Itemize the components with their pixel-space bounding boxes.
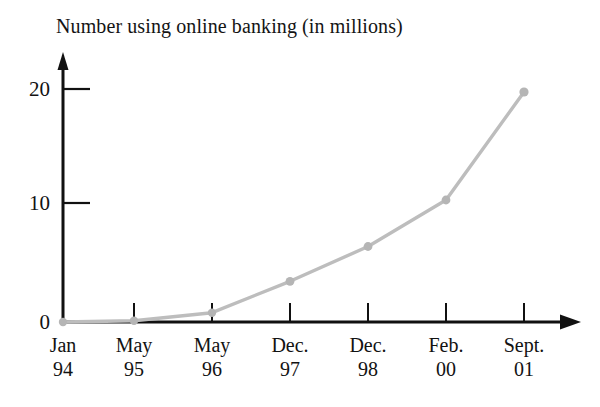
data-point-dec-97	[286, 277, 295, 286]
y-axis-arrow-icon	[58, 52, 69, 70]
data-point-feb-00	[442, 196, 451, 205]
x-axis-label-may-95: May 95	[89, 334, 179, 381]
x-axis-label-dec-97-year: 97	[245, 358, 335, 382]
data-point-jan-94	[59, 318, 67, 326]
x-axis-label-sept-01: Sept. 01	[479, 334, 569, 381]
x-axis-label-feb-00-year: 00	[401, 358, 491, 382]
chart-container: Number using online banking (in millions…	[0, 0, 600, 407]
y-axis-label-20: 20	[6, 77, 50, 102]
data-line-series-online-banking	[63, 92, 524, 322]
x-axis-label-sept-01-year: 01	[479, 358, 569, 382]
x-axis-label-dec-97-month: Dec.	[271, 334, 308, 356]
data-point-dec-98	[364, 242, 373, 251]
x-axis-label-dec-98-month: Dec.	[349, 334, 386, 356]
x-axis-label-sept-01-month: Sept.	[504, 334, 545, 356]
x-axis-arrow-icon	[560, 315, 581, 330]
x-axis-label-may-95-month: May	[116, 334, 153, 356]
x-axis-label-may-96: May 96	[167, 334, 257, 381]
x-axis-label-may-95-year: 95	[89, 358, 179, 382]
x-axis-label-dec-97: Dec. 97	[245, 334, 335, 381]
x-axis-label-feb-00-month: Feb.	[429, 334, 464, 356]
x-axis-label-may-96-month: May	[194, 334, 231, 356]
y-axis-label-0: 0	[6, 310, 50, 335]
x-axis-label-jan-94-month: Jan	[50, 334, 77, 356]
x-axis-label-feb-00: Feb. 00	[401, 334, 491, 381]
x-axis-label-dec-98-year: 98	[323, 358, 413, 382]
data-point-may-96	[208, 309, 216, 317]
x-axis-label-may-96-year: 96	[167, 358, 257, 382]
data-point-may-95	[130, 317, 138, 325]
y-axis-label-10: 10	[6, 191, 50, 216]
data-point-sept-01	[519, 87, 528, 96]
x-axis-label-dec-98: Dec. 98	[323, 334, 413, 381]
